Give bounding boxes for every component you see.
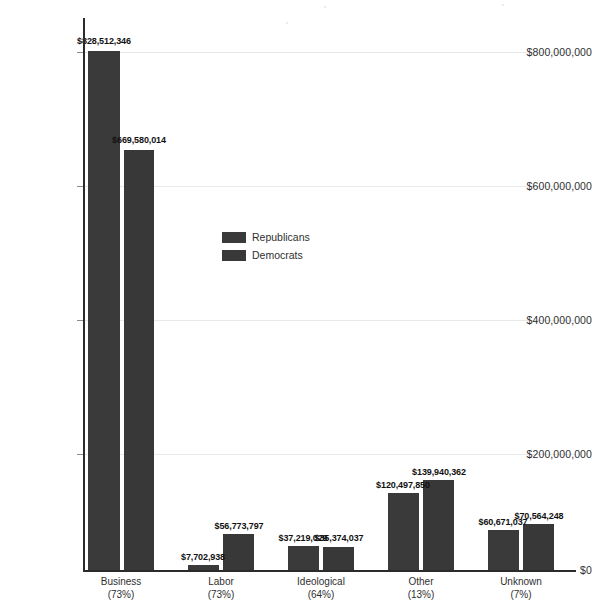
bar-business-republicans [88,51,120,570]
y-axis-label-800m: $800,000,000 [518,46,592,58]
gridline-400m [84,320,576,321]
bar-value-business-republicans: $828,512,346 [77,36,131,46]
y-axis-label-0: $0 [518,564,592,576]
bar-value-other-democrats: $139,940,362 [412,467,466,477]
bar-value-labor-democrats: $56,773,797 [215,521,264,531]
x-axis-label-labor-text: Labor [208,576,234,587]
bar-value-unknown-democrats: $70,564,248 [515,511,564,521]
x-axis-label-business-text: Business [101,576,142,587]
x-axis-label-other-text: Other [408,576,433,587]
scan-speck [502,4,504,6]
bar-unknown-republicans [488,530,519,570]
x-axis-label-ideological: Ideological (64%) [297,576,345,601]
bar-ideological-democrats [323,547,354,570]
bar-other-republicans [388,493,419,570]
legend-item-democrats: Democrats [222,248,310,262]
y-axis-label-600m: $600,000,000 [518,180,592,192]
bar-labor-democrats [223,534,254,570]
y-axis-line [83,18,85,570]
x-axis-label-labor-pct: (73%) [208,589,235,602]
y-tick-800m [77,52,83,53]
y-tick-600m [77,186,83,187]
plot-area: $828,512,346 $669,580,014 $7,702,938 $56… [84,18,576,570]
bar-value-labor-republicans: $7,702,938 [181,552,225,562]
bar-other-democrats [423,480,454,570]
y-axis-label-400m: $400,000,000 [518,314,592,326]
gridline-200m [84,454,576,455]
bar-value-other-republicans: $120,497,850 [376,480,430,490]
x-axis-label-labor: Labor (73%) [208,576,235,601]
scan-speck [324,6,326,8]
bar-ideological-republicans [288,546,319,570]
legend-label-republicans: Republicans [252,231,310,243]
y-tick-400m [77,320,83,321]
x-axis-label-other: Other (13%) [408,576,435,601]
x-axis-label-ideological-pct: (64%) [297,589,345,602]
bar-value-ideological-democrats: $35,374,037 [315,533,364,543]
x-axis-label-unknown: Unknown (7%) [500,576,542,601]
y-tick-200m [77,454,83,455]
y-axis-label-200m: $200,000,000 [518,448,592,460]
x-axis-line [83,570,576,572]
legend-label-democrats: Democrats [252,249,303,261]
gridline-600m [84,186,576,187]
x-axis-label-other-pct: (13%) [408,589,435,602]
x-axis-label-ideological-text: Ideological [297,576,345,587]
gridline-800m [84,52,576,53]
legend-item-republicans: Republicans [222,230,310,244]
legend-swatch-democrats [222,250,246,261]
x-axis-label-business: Business (73%) [101,576,142,601]
bar-chart: $828,512,346 $669,580,014 $7,702,938 $56… [0,0,592,605]
legend-swatch-republicans [222,232,246,243]
bar-business-democrats [124,150,154,570]
bar-value-business-democrats: $669,580,014 [112,135,166,145]
x-axis-label-unknown-pct: (7%) [500,589,542,602]
x-axis-label-business-pct: (73%) [101,589,142,602]
chart-legend: Republicans Democrats [222,230,310,266]
x-axis-label-unknown-text: Unknown [500,576,542,587]
